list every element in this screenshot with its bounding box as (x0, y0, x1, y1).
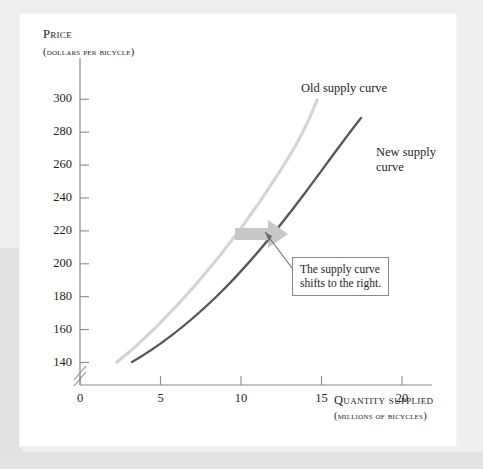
x-tick-label-15: 15 (310, 391, 334, 406)
old-supply-curve-label: Old supply curve (301, 81, 387, 96)
x-tick-label-10: 10 (229, 391, 253, 406)
x-tick-label-20: 20 (390, 391, 414, 406)
y-axis-title-main: Price (43, 26, 135, 43)
shift-callout-line1: The supply curve (300, 262, 381, 276)
new-supply-curve-label-line2: curve (376, 160, 436, 175)
y-tick-label-180: 180 (40, 289, 72, 304)
x-axis-ticks (80, 376, 402, 385)
x-tick-label-0: 0 (68, 391, 92, 406)
new-supply-curve-label-line1: New supply (376, 145, 436, 160)
figure-card: Price (dollars per bicycle) Quantity sup… (20, 14, 456, 446)
margin-block-bottom (0, 452, 483, 469)
y-axis-title: Price (dollars per bicycle) (43, 26, 135, 60)
chart-canvas (20, 14, 456, 446)
old-supply-curve (117, 100, 317, 362)
shift-callout-line2: shifts to the right. (300, 276, 381, 290)
new-supply-curve-label: New supply curve (376, 145, 436, 175)
x-axis-title-main: Quantity supplied (334, 392, 433, 408)
plot-area: Price (dollars per bicycle) Quantity sup… (20, 14, 456, 446)
y-axis-ticks (80, 99, 89, 362)
margin-block-left (0, 248, 22, 469)
x-tick-label-5: 5 (149, 391, 173, 406)
x-axis-title: Quantity supplied (millions of bicycles) (334, 392, 433, 424)
y-tick-label-200: 200 (40, 256, 72, 271)
y-tick-label-160: 160 (40, 322, 72, 337)
y-tick-label-260: 260 (40, 157, 72, 172)
y-tick-label-300: 300 (40, 91, 72, 106)
y-tick-label-280: 280 (40, 124, 72, 139)
y-axis-title-sub: (dollars per bicycle) (43, 43, 135, 60)
y-tick-label-240: 240 (40, 190, 72, 205)
shift-callout-box: The supply curve shifts to the right. (292, 257, 389, 296)
y-tick-label-220: 220 (40, 223, 72, 238)
figure-page: Price (dollars per bicycle) Quantity sup… (0, 0, 483, 469)
x-axis-title-sub: (millions of bicycles) (334, 408, 433, 424)
y-tick-label-140: 140 (40, 355, 72, 370)
